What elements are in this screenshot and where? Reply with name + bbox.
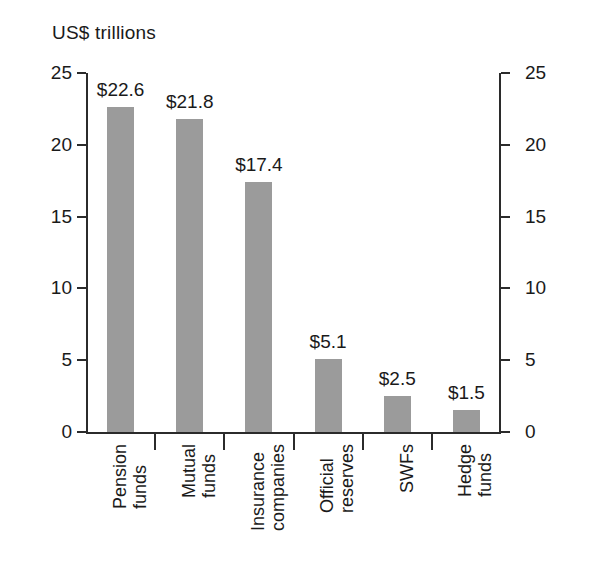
y-tick-right (501, 144, 510, 146)
y-tick-label-left: 10 (51, 278, 72, 297)
y-tick-label-left: 0 (61, 422, 72, 441)
y-tick-right (501, 359, 510, 361)
bar-value-label: $1.5 (426, 383, 506, 402)
bar (245, 182, 272, 432)
bar (384, 396, 411, 432)
bar-value-label: $22.6 (81, 80, 161, 99)
y-tick-right (501, 72, 510, 74)
y-tick-label-left: 15 (51, 207, 72, 226)
x-axis-label: SWFs (397, 444, 417, 493)
x-axis-label-line: Mutual (179, 444, 199, 498)
x-axis-label: Hedgefunds (455, 444, 495, 497)
y-tick-left (77, 216, 86, 218)
x-axis-label-line: Pension (110, 444, 130, 509)
y-tick-right (501, 216, 510, 218)
x-axis-label-line: reserves (337, 444, 357, 513)
y-tick-left (77, 431, 86, 433)
y-axis-left-line (86, 73, 88, 434)
y-tick-label-left: 25 (51, 63, 72, 82)
x-tick (431, 434, 433, 450)
x-axis-label-line: Hedge (455, 444, 475, 497)
y-tick-label-right: 15 (525, 207, 546, 226)
x-tick (293, 434, 295, 450)
x-axis-label-line: SWFs (397, 444, 417, 493)
x-axis-label: Mutualfunds (179, 444, 219, 498)
x-axis-label-line: Official (317, 444, 337, 513)
y-tick-left (77, 287, 86, 289)
x-tick (223, 434, 225, 450)
bar-chart: US$ trillions 0510152025 0510152025 $22.… (0, 0, 615, 584)
bar (315, 359, 342, 432)
bar (107, 107, 134, 432)
x-axis-label: Pensionfunds (110, 444, 150, 509)
bar-value-label: $21.8 (150, 92, 230, 111)
y-tick-label-right: 5 (525, 350, 536, 369)
y-tick-left (77, 72, 86, 74)
x-axis-label-line: funds (475, 444, 495, 497)
y-tick-label-right: 0 (525, 422, 536, 441)
chart-title: US$ trillions (52, 22, 156, 44)
bar-value-label: $17.4 (219, 155, 299, 174)
bar-value-label: $5.1 (288, 332, 368, 351)
x-tick (154, 434, 156, 450)
y-tick-right (501, 431, 510, 433)
x-axis-label-line: Insurance (248, 444, 268, 531)
y-tick-label-left: 5 (61, 350, 72, 369)
bar-value-label: $2.5 (357, 369, 437, 388)
x-axis-label-line: funds (130, 444, 150, 509)
y-tick-left (77, 359, 86, 361)
bar (453, 410, 480, 432)
x-axis-label-line: funds (199, 444, 219, 498)
y-axis-right-line (499, 73, 501, 434)
y-tick-left (77, 144, 86, 146)
x-axis-label: Insurancecompanies (248, 444, 288, 531)
x-axis-label: Officialreserves (317, 444, 357, 513)
bar (176, 119, 203, 432)
y-tick-right (501, 287, 510, 289)
plot-area: 0510152025 0510152025 $22.6$21.8$17.4$5.… (86, 73, 501, 434)
x-axis-label-line: companies (268, 444, 288, 531)
y-tick-label-right: 25 (525, 63, 546, 82)
y-tick-label-right: 20 (525, 135, 546, 154)
y-tick-label-right: 10 (525, 278, 546, 297)
x-tick (362, 434, 364, 450)
y-tick-label-left: 20 (51, 135, 72, 154)
